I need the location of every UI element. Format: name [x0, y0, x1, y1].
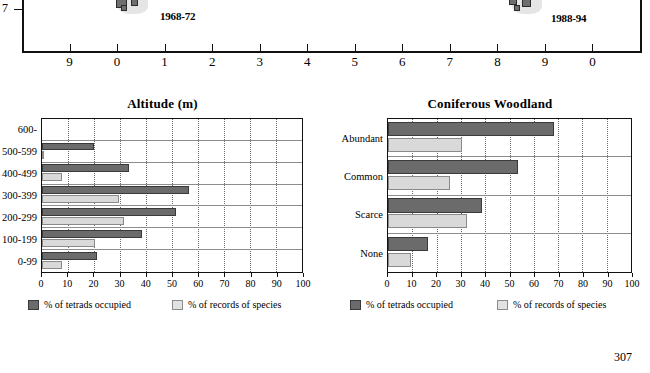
x-axis-tick [632, 273, 633, 277]
map-x-tick [355, 44, 356, 51]
x-axis-tick-label: 0 [385, 278, 390, 289]
map-x-tick-label: 1 [161, 54, 168, 70]
map-x-tick [307, 44, 308, 51]
bar-tetrads-occupied [42, 208, 176, 216]
bar-records-of-species [388, 176, 450, 190]
legend-altitude: % of tetrads occupied % of records of sp… [0, 299, 325, 315]
map-x-tick-label: 4 [304, 54, 311, 70]
legend-label-tetrads: % of tetrads occupied [44, 299, 131, 310]
legend-item-tetrads: % of tetrads occupied [350, 299, 453, 310]
category-label: Common [344, 170, 388, 181]
category-label: None [360, 247, 388, 258]
x-axis-tick-label: 20 [88, 278, 98, 289]
map-x-tick [450, 44, 451, 51]
map-period-label-1988-94: 1988-94 [551, 12, 586, 24]
legend-item-records: % of records of species [497, 299, 606, 310]
x-axis-tick-label: 70 [554, 278, 564, 289]
chart-category-row: Abundant [388, 119, 631, 157]
map-x-tick [70, 44, 71, 51]
x-axis-tick [146, 273, 147, 277]
map-x-tick [165, 44, 166, 51]
x-axis-tick-label: 20 [431, 278, 441, 289]
map-x-tick [545, 44, 546, 51]
legend-label-records: % of records of species [513, 299, 606, 310]
bar-tetrads-occupied [388, 237, 428, 252]
x-axis-tick [303, 273, 304, 277]
bar-records-of-species [388, 214, 467, 228]
category-label: 200-299 [2, 211, 42, 222]
plot-area-altitude: 600-500-599400-499300-399200-299100-1990… [41, 118, 303, 273]
x-axis-tick-label: 50 [167, 278, 177, 289]
legend-item-records: % of records of species [172, 299, 281, 310]
map-x-axis-left-cap [22, 44, 24, 52]
legend-label-tetrads: % of tetrads occupied [366, 299, 453, 310]
map-x-tick [260, 44, 261, 51]
map-x-tick-label: 2 [209, 54, 216, 70]
legend-swatch-light-icon [497, 300, 508, 310]
x-axis-tick-label: 90 [272, 278, 282, 289]
chart-category-row: 0-99 [42, 250, 302, 272]
map-x-tick [117, 44, 118, 51]
chart-category-row: 600- [42, 119, 302, 141]
bar-tetrads-occupied [42, 186, 189, 194]
x-axis-tick [436, 273, 437, 277]
bar-records-of-species [388, 138, 462, 152]
x-axis-tick [387, 273, 388, 277]
map-x-tick-label: 8 [494, 54, 501, 70]
x-axis-tick [93, 273, 94, 277]
x-axis-tick-label: 70 [219, 278, 229, 289]
x-axis-labels-altitude: 0102030405060708090100 [41, 278, 303, 292]
category-label: 100-199 [2, 233, 42, 244]
bar-records-of-species [42, 173, 62, 181]
chart-coniferous-woodland: Coniferous Woodland AbundantCommonScarce… [330, 96, 650, 315]
bar-records-of-species [42, 151, 44, 159]
x-axis-tick-label: 100 [625, 278, 640, 289]
map-record-square [131, 0, 138, 6]
map-x-axis [22, 51, 642, 53]
x-axis-tick [534, 273, 535, 277]
x-axis-labels-coniferous-woodland: 0102030405060708090100 [387, 278, 632, 292]
bar-records-of-species [42, 195, 119, 203]
x-axis-tick-label: 90 [603, 278, 613, 289]
x-axis-tick [198, 273, 199, 277]
x-axis-tick-label: 30 [115, 278, 125, 289]
map-y-tick-label: 7 [2, 1, 8, 16]
x-axis-tick-label: 30 [456, 278, 466, 289]
x-axis-tick-label: 100 [296, 278, 311, 289]
x-axis-tick [412, 273, 413, 277]
bar-records-of-species [42, 217, 124, 225]
map-x-tick-label: 7 [447, 54, 454, 70]
x-axis-tick [251, 273, 252, 277]
chart-category-row: 300-399 [42, 185, 302, 207]
x-axis-tick-label: 80 [246, 278, 256, 289]
map-x-tick-label: 6 [399, 54, 406, 70]
map-record-square [121, 5, 127, 11]
x-axis-tick [559, 273, 560, 277]
map-x-tick-label: 9 [66, 54, 73, 70]
x-axis-tick-label: 50 [505, 278, 515, 289]
x-axis-tick [583, 273, 584, 277]
chart-category-row: 100-199 [42, 228, 302, 250]
chart-category-row: Scarce [388, 196, 631, 234]
x-axis-tick-label: 60 [193, 278, 203, 289]
category-label: 600- [18, 124, 42, 135]
x-axis-tick-label: 40 [480, 278, 490, 289]
bar-tetrads-occupied [388, 198, 482, 212]
x-axis-tick [510, 273, 511, 277]
map-x-tick [402, 44, 403, 51]
x-axis-tick-label: 80 [578, 278, 588, 289]
chart-category-row: 500-599 [42, 141, 302, 163]
chart-altitude: Altitude (m) 600-500-599400-499300-39920… [0, 96, 325, 315]
bar-tetrads-occupied [42, 252, 97, 260]
map-cluster-1968-72 [104, 0, 158, 22]
legend-label-records: % of records of species [188, 299, 281, 310]
map-x-tick-label: 3 [256, 54, 263, 70]
bar-records-of-species [42, 239, 95, 247]
map-x-tick-label: 9 [542, 54, 549, 70]
bar-tetrads-occupied [42, 143, 94, 151]
bar-tetrads-occupied [388, 122, 554, 136]
bar-tetrads-occupied [42, 164, 129, 172]
chart-title-coniferous-woodland: Coniferous Woodland [330, 96, 650, 112]
category-label: Abundant [342, 132, 388, 143]
x-axis-tick-label: 0 [39, 278, 44, 289]
